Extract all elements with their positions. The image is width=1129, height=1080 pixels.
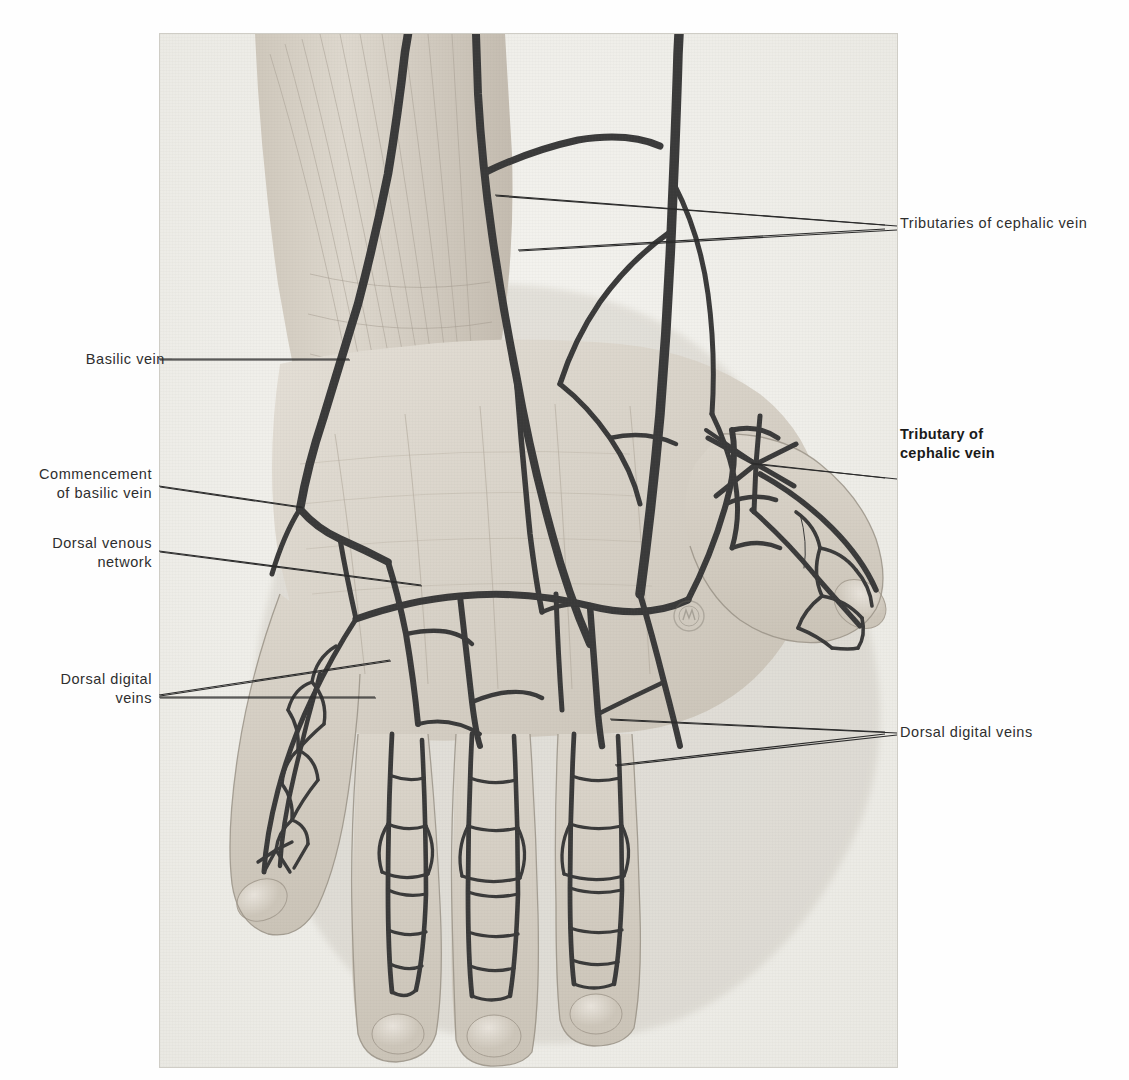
label-commencement-of-basilic-vein: Commencement of basilic vein [0, 465, 152, 503]
anatomical-illustration-plate [159, 33, 898, 1068]
label-dorsal-venous-network: Dorsal venous network [0, 534, 152, 572]
plate-paper-grain [160, 34, 897, 1067]
label-dorsal-digital-veins-right: Dorsal digital veins [900, 723, 1120, 742]
label-basilic-vein: Basilic vein [0, 350, 165, 369]
label-dorsal-digital-veins-left: Dorsal digital veins [0, 670, 152, 708]
illustration-page: Tributaries of cephalic vein Tributary o… [0, 0, 1129, 1080]
label-tributaries-of-cephalic-vein: Tributaries of cephalic vein [900, 214, 1128, 233]
label-tributary-of-cephalic-vein: Tributary of cephalic vein [900, 425, 1100, 463]
